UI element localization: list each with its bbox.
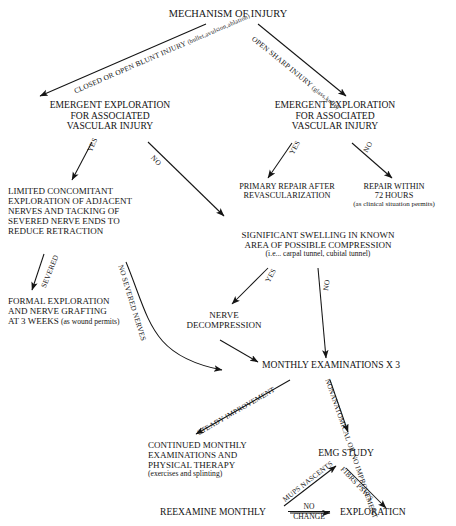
node-note: (as clinical situation permits): [336, 201, 452, 209]
edge-root-to-right: [258, 24, 346, 96]
node-label-line: VASCULAR INJURY: [20, 121, 200, 132]
node-limited-concomitant-exploration: LIMITED CONCOMITANT EXPLORATION OF ADJAC…: [8, 186, 178, 236]
edge-label-no-change: NO CHANGE: [288, 503, 330, 520]
edge-root-to-left: [40, 24, 206, 96]
node-label-line: EXPLORATION OF ADJACENT: [8, 196, 178, 206]
node-label-line: LIMITED CONCOMITANT: [8, 186, 178, 196]
node-continued-monthly-examinations: CONTINUED MONTHLY EXAMINATIONS AND PHYSI…: [148, 440, 328, 479]
node-primary-repair: PRIMARY REPAIR AFTER REVASCULARIZATION: [222, 182, 352, 201]
node-mechanism-of-injury: MECHANISM OF INJURY: [0, 8, 456, 20]
edge-label-line: NO: [321, 279, 332, 291]
node-label-line: AT 3 WEEKS: [8, 316, 61, 326]
node-monthly-examinations: MONTHLY EXAMINATIONS X 3: [262, 360, 456, 371]
node-label: EXPLORATICN: [340, 507, 456, 518]
node-left-emergent-exploration: EMERGENT EXPLORATION FOR ASSOCIATED VASC…: [20, 100, 200, 132]
edge-label-swelling-no: NO: [322, 279, 332, 291]
node-label: MONTHLY EXAMINATIONS X 3: [262, 360, 456, 371]
node-label-line: REVASCULARIZATION: [222, 191, 352, 200]
node-label-line: NERVE: [150, 310, 298, 320]
node-significant-swelling: SIGNIFICANT SWELLING IN KNOWN AREA OF PO…: [200, 230, 436, 259]
node-emg-study: EMG STUDY: [296, 448, 396, 459]
node-note: (exercises and splinting): [148, 470, 328, 479]
edge-decompression-to-monthly: [220, 340, 258, 362]
node-label-line: VASCULAR INJURY: [240, 121, 430, 132]
node-label-line: SIGNIFICANT SWELLING IN KNOWN: [200, 230, 436, 240]
node-label-line: SEVERED NERVE ENDS TO: [8, 216, 178, 226]
node-label-line: PRIMARY REPAIR AFTER: [222, 182, 352, 191]
node-exploration: EXPLORATICN: [340, 507, 456, 518]
edge-swelling-yes: [232, 268, 268, 304]
edge-label-line: NO: [288, 503, 330, 511]
node-label-line: DECOMPRESSION: [150, 320, 298, 330]
node-label-line: FORMAL EXPLORATION: [8, 296, 198, 306]
flowchart-canvas: MECHANISM OF INJURY CLOSED OR OPEN BLUNT…: [0, 0, 456, 526]
node-label: MECHANISM OF INJURY: [0, 8, 456, 20]
node-repair-within-72-hours: REPAIR WITHIN 72 HOURS (as clinical situ…: [336, 182, 452, 208]
node-nerve-decompression: NERVE DECOMPRESSION: [150, 310, 298, 330]
node-label-line: NERVES AND TACKING OF: [8, 206, 178, 216]
node-label-line: REPAIR WITHIN: [336, 182, 452, 191]
node-label-line: REDUCE RETRACTION: [8, 226, 178, 236]
node-right-emergent-exploration: EMERGENT EXPLORATION FOR ASSOCIATED VASC…: [240, 100, 430, 132]
node-note: (i.e... carpal tunnel, cubital tunnel): [200, 250, 436, 259]
node-note: (as wound permits): [61, 317, 120, 326]
edge-label-line: CHANGE: [288, 511, 330, 520]
node-label: EMG STUDY: [296, 448, 396, 459]
